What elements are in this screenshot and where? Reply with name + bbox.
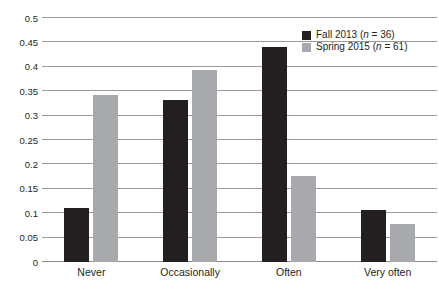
y-tick-label: 0 bbox=[0, 257, 38, 267]
bar-group bbox=[42, 18, 141, 262]
bar-group bbox=[338, 18, 437, 262]
y-tick-label: 0.2 bbox=[0, 160, 38, 170]
legend-item: Fall 2013 (n = 36) bbox=[302, 30, 407, 40]
bar-chart: 00.050.10.150.20.250.30.350.40.450.5 Nev… bbox=[0, 0, 439, 298]
legend-swatch-icon bbox=[302, 43, 311, 52]
y-tick-label: 0.25 bbox=[0, 135, 38, 145]
bar bbox=[192, 70, 217, 262]
legend-label: Spring 2015 (n = 61) bbox=[316, 42, 407, 52]
legend-swatch-icon bbox=[302, 31, 311, 40]
y-tick-label: 0.4 bbox=[0, 62, 38, 72]
x-category-label: Often bbox=[276, 266, 302, 278]
y-tick-label: 0.3 bbox=[0, 111, 38, 121]
bar bbox=[291, 176, 316, 262]
plot-area bbox=[42, 18, 437, 262]
bar bbox=[262, 47, 287, 262]
y-tick-label: 0.45 bbox=[0, 38, 38, 48]
legend: Fall 2013 (n = 36)Spring 2015 (n = 61) bbox=[302, 30, 407, 52]
y-tick-label: 0.15 bbox=[0, 184, 38, 194]
x-category-label: Occasionally bbox=[160, 266, 220, 278]
y-tick-label: 0.35 bbox=[0, 86, 38, 96]
bar bbox=[390, 224, 415, 262]
x-category-label: Very often bbox=[364, 266, 411, 278]
y-axis-tick-labels: 00.050.10.150.20.250.30.350.40.450.5 bbox=[0, 18, 38, 262]
bar-group bbox=[141, 18, 240, 262]
bar bbox=[361, 210, 386, 262]
x-category-label: Never bbox=[77, 266, 105, 278]
legend-item: Spring 2015 (n = 61) bbox=[302, 42, 407, 52]
legend-label: Fall 2013 (n = 36) bbox=[316, 30, 395, 40]
bar bbox=[163, 100, 188, 263]
y-tick-label: 0.5 bbox=[0, 13, 38, 23]
y-tick-label: 0.05 bbox=[0, 233, 38, 243]
x-axis-category-labels: NeverOccasionallyOftenVery often bbox=[42, 266, 437, 288]
y-tick-label: 0.1 bbox=[0, 208, 38, 218]
bar-group bbox=[240, 18, 339, 262]
bar bbox=[93, 95, 118, 262]
bar bbox=[64, 208, 89, 262]
